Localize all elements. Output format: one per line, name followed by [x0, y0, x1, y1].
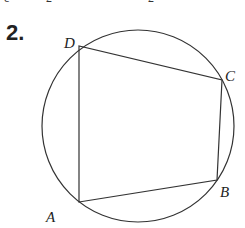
vertex-label-b: B [220, 184, 229, 200]
cyclic-quadrilateral-diagram: A B C D [0, 0, 245, 228]
vertex-label-a: A [45, 209, 56, 225]
vertex-label-c: C [225, 68, 236, 84]
quadrilateral-abcd [79, 46, 222, 202]
vertex-label-d: D [63, 35, 75, 51]
